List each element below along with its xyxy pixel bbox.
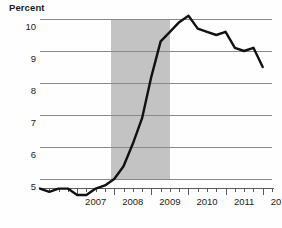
unemployment-line	[40, 16, 263, 195]
unemployment-rate-chart: Percent 5678910 200720082009201020112012	[0, 0, 282, 228]
data-line-svg	[0, 0, 282, 228]
